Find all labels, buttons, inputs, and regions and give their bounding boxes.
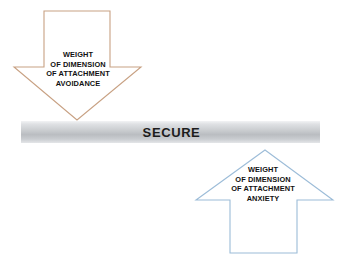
secure-label: SECURE xyxy=(21,121,320,143)
avoidance-label-line-4: AVOIDANCE xyxy=(20,79,136,89)
avoidance-arrow-label: WEIGHT OF DIMENSION OF ATTACHMENT AVOIDA… xyxy=(20,50,136,88)
avoidance-label-line-3: OF ATTACHMENT xyxy=(20,69,136,79)
avoidance-label-line-2: OF DIMENSION xyxy=(20,60,136,70)
anxiety-arrow-label: WEIGHT OF DIMENSION OF ATTACHMENT ANXIET… xyxy=(205,165,321,203)
anxiety-label-line-3: OF ATTACHMENT xyxy=(205,184,321,194)
anxiety-label-line-4: ANXIETY xyxy=(205,194,321,204)
anxiety-label-line-2: OF DIMENSION xyxy=(205,175,321,185)
avoidance-label-line-1: WEIGHT xyxy=(20,50,136,60)
attachment-diagram: SECURE WEIGHT OF DIMENSION OF ATTACHMENT… xyxy=(0,0,337,266)
anxiety-label-line-1: WEIGHT xyxy=(205,165,321,175)
